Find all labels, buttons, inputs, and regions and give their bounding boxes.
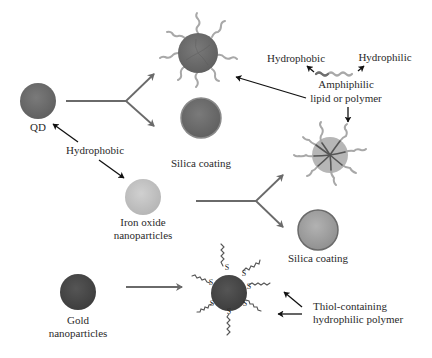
amphiphilic-label-line1: Amphiphilic xyxy=(318,78,374,91)
amphiphilic-hydrophobic-label: Hydrophobic xyxy=(267,52,325,65)
qd-label: QD xyxy=(30,121,46,134)
qd-silica-coated-particle xyxy=(181,98,221,138)
sulfur-label: S xyxy=(243,297,247,310)
qd-branch-arrow xyxy=(66,74,154,126)
amphiphilic-molecule-icon xyxy=(316,73,352,76)
sulfur-label: S xyxy=(247,280,251,293)
amphiphilic-hydrophilic-label: Hydrophilic xyxy=(358,51,411,64)
amphiphilic-label-line2: lipid or polymer xyxy=(310,92,382,105)
silica-coating-top-label: Silica coating xyxy=(171,157,231,170)
qd-amphiphilic-coated-particle xyxy=(160,13,237,87)
hydrophobic-core-label: Hydrophobic xyxy=(66,144,124,157)
iron-oxide-silica-coated-particle xyxy=(298,210,338,250)
iron-oxide-label-line2: nanoparticles xyxy=(114,229,173,242)
gold-particle xyxy=(60,274,96,310)
iron-oxide-particle xyxy=(125,179,161,215)
thiol-arrows xyxy=(278,292,302,314)
iron-oxide-label-line1: Iron oxide xyxy=(120,216,166,229)
iron-oxide-branch-arrow xyxy=(196,175,283,227)
qd-particle xyxy=(20,83,56,119)
thiol-label-line2: hydrophilic polymer xyxy=(313,313,403,326)
gold-label-line2: nanoparticles xyxy=(49,327,108,340)
gold-label-line1: Gold xyxy=(67,314,89,327)
sulfur-label: S xyxy=(209,276,213,289)
gold-thiol-functionalized-particle xyxy=(192,244,270,335)
thiol-label-line1: Thiol-containing xyxy=(313,300,387,313)
sulfur-label: S xyxy=(242,267,246,280)
iron-oxide-micelle-particle xyxy=(294,122,366,185)
sulfur-label: S xyxy=(227,305,231,318)
sulfur-label: S xyxy=(225,261,229,274)
silica-coating-bottom-label: Silica coating xyxy=(288,252,348,265)
sulfur-label: S xyxy=(210,297,214,310)
